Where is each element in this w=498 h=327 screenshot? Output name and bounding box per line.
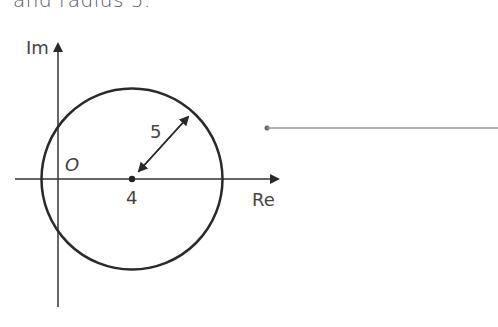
re-axis-label: Re [252,189,275,210]
origin-label: O [65,154,79,175]
radius-label: 5 [150,121,161,142]
radius-arrow [139,117,188,171]
pointer-line [265,126,498,131]
im-axis-label: Im [26,37,49,58]
center-point [129,176,135,182]
center-label: 4 [126,187,137,208]
argand-diagram: Im Re O 4 5 [0,0,498,327]
